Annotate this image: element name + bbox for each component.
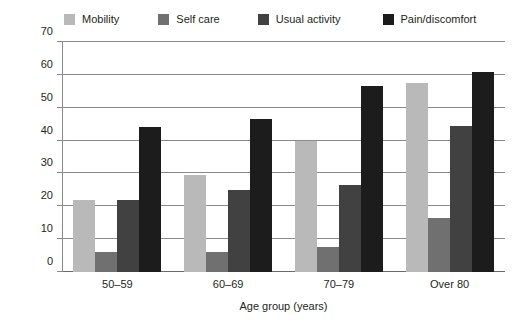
bar — [317, 247, 339, 272]
x-axis-tick-labels: 50–5960–6970–79Over 80 — [62, 278, 505, 294]
bar-chart: MobilitySelf careUsual activityPain/disc… — [0, 0, 521, 323]
x-axis-tick-label: 50–59 — [102, 278, 133, 290]
y-axis-tick-label: 0 — [47, 256, 53, 267]
legend-item-mobility[interactable]: Mobility — [64, 14, 119, 25]
bar — [117, 200, 139, 272]
bar — [73, 200, 95, 272]
legend-label: Self care — [176, 14, 219, 25]
legend-label: Pain/discomfort — [401, 14, 477, 25]
bar — [361, 86, 383, 272]
x-axis-tick-label: Over 80 — [430, 278, 469, 290]
legend-item-self-care[interactable]: Self care — [158, 14, 219, 25]
plot-area: 010203040506070 — [62, 42, 505, 272]
bar — [450, 126, 472, 272]
bar — [206, 252, 228, 272]
legend-swatch-icon — [158, 14, 169, 25]
bar — [339, 185, 361, 272]
legend-label: Mobility — [82, 14, 119, 25]
x-axis-tick-label: 60–69 — [213, 278, 244, 290]
bars-layer — [62, 42, 505, 272]
y-axis-tick-label: 60 — [41, 59, 53, 70]
bar — [472, 72, 494, 272]
bar — [184, 175, 206, 272]
y-axis-tick-label: 50 — [41, 92, 53, 103]
y-axis-tick-label: 10 — [41, 223, 53, 234]
y-axis-tick-label: 70 — [41, 26, 53, 37]
legend-swatch-icon — [383, 14, 394, 25]
legend-swatch-icon — [64, 14, 75, 25]
x-axis-title: Age group (years) — [62, 300, 505, 312]
bar — [228, 190, 250, 272]
legend-swatch-icon — [258, 14, 269, 25]
bar — [428, 218, 450, 272]
bar — [295, 141, 317, 272]
legend-item-usual-activity[interactable]: Usual activity — [258, 14, 341, 25]
x-axis-tick-label: 70–79 — [324, 278, 355, 290]
legend-label: Usual activity — [276, 14, 341, 25]
bar — [95, 252, 117, 272]
bar — [139, 127, 161, 272]
chart-legend: MobilitySelf careUsual activityPain/disc… — [62, 8, 505, 30]
bar — [406, 83, 428, 272]
legend-item-pain-discomfort[interactable]: Pain/discomfort — [383, 14, 477, 25]
bar — [250, 119, 272, 272]
y-axis-tick-label: 40 — [41, 125, 53, 136]
y-axis-tick-label: 20 — [41, 190, 53, 201]
y-axis-tick-label: 30 — [41, 157, 53, 168]
